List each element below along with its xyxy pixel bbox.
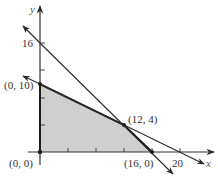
x-axis-label: x: [205, 157, 211, 169]
vertex-12-4: [122, 123, 126, 127]
point-label-0-10: (0, 10): [4, 79, 34, 92]
point-label-12-4: (12, 4): [128, 113, 158, 126]
point-label-origin: (0, 0): [9, 157, 33, 170]
y-axis-label: y: [29, 3, 35, 15]
x-tick-label-20: 20: [172, 157, 184, 169]
vertex-origin: [38, 150, 42, 154]
vertex-0-10: [38, 82, 42, 86]
vertex-16-0: [150, 150, 154, 154]
feasible-region-graph: y x 16 20 (0, 0) (0, 10) (12, 4) (16, 0): [0, 0, 218, 180]
point-label-16-0: (16, 0): [124, 157, 154, 170]
y-tick-label-16: 16: [22, 37, 34, 49]
